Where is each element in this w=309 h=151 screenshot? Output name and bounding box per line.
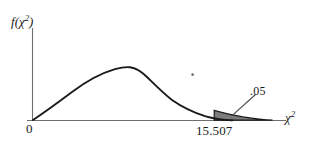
origin-tick-label: 0 [26,122,33,135]
tail-area-label: .05 [250,85,266,97]
density-curve [33,67,232,120]
critical-value-tick-label: 15.507 [196,124,232,137]
stray-speck [192,74,194,76]
y-axis-label: f(χ2) [11,14,33,28]
chi-square-distribution-figure: f(χ2) χ2 0 15.507 .05 [0,0,309,151]
y-axis-label-close-paren: ) [29,14,33,29]
y-axis-label-open-paren: (χ [15,14,25,29]
tail-shaded-region [214,110,272,120]
x-axis-label: χ2 [285,110,295,124]
x-axis-label-exponent: 2 [291,109,295,119]
chi-square-plot-canvas [0,0,309,151]
